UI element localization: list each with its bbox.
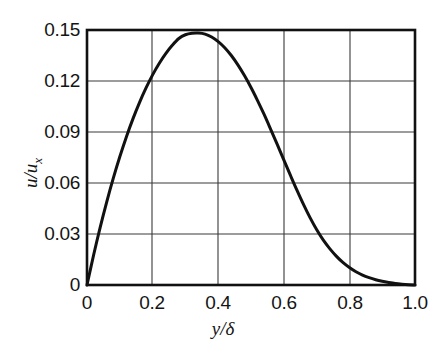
x-tick-label-1.0: 1.0 [402,292,428,314]
x-tick-label-0.8: 0.8 [337,292,363,314]
y-tick-label-0: 0 [34,274,80,296]
data-series-velocity-profile [87,33,415,285]
chart-figure: 0.15 0.12 0.09 0.06 0.03 0 0 0.2 0.4 0.6… [0,0,447,346]
x-tick-label-0.6: 0.6 [271,292,297,314]
x-tick-label-0.4: 0.4 [205,292,231,314]
grid-horizontal [87,81,415,234]
x-tick-label-0.2: 0.2 [139,292,165,314]
y-axis-title-subscript: x [30,158,45,164]
y-axis-title: u/ux [20,158,46,188]
y-tick-label-0.03: 0.03 [34,223,80,245]
grid-vertical [152,30,350,285]
y-axis-title-text: u/u [20,164,41,188]
plot-frame [87,30,415,285]
x-axis-title: y/δ [212,318,235,340]
x-tick-label-0: 0 [82,292,92,314]
y-tick-label-0.09: 0.09 [34,121,80,143]
y-tick-label-0.12: 0.12 [34,70,80,92]
y-tick-label-0.15: 0.15 [34,19,80,41]
